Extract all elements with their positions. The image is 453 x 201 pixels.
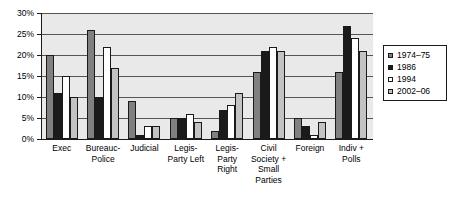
bar	[261, 51, 269, 139]
legend-label: 1974–75	[397, 51, 430, 60]
bar	[87, 30, 95, 139]
bars-layer	[41, 13, 372, 139]
bar	[351, 38, 359, 139]
y-tick-label: 30%	[17, 9, 34, 18]
legend-item[interactable]: 1986	[388, 61, 443, 73]
bar	[343, 26, 351, 139]
bar	[178, 118, 186, 139]
bar	[144, 126, 152, 139]
bar	[359, 51, 367, 139]
bar	[54, 93, 62, 139]
legend-swatch-icon	[388, 89, 393, 94]
legend-swatch-icon	[388, 53, 393, 58]
bar	[253, 72, 261, 139]
bar	[152, 126, 160, 139]
legend-item[interactable]: 1994	[388, 73, 443, 85]
x-axis: ExecBureauc- PoliceJudicialLegis- Party …	[41, 143, 372, 201]
bar-group	[128, 13, 160, 139]
legend-item[interactable]: 1974–75	[388, 49, 443, 61]
legend-swatch-icon	[388, 77, 393, 82]
bar	[335, 72, 343, 139]
bar-group	[87, 13, 119, 139]
bar	[194, 122, 202, 139]
bar	[95, 97, 103, 139]
legend-label: 1986	[397, 63, 416, 72]
y-tick-label: 20%	[17, 51, 34, 60]
legend: 1974–75198619942002–06	[383, 45, 447, 101]
bar	[318, 122, 326, 139]
bar-chart: 0%5%10%15%20%25%30% ExecBureauc- PoliceJ…	[0, 0, 453, 201]
bar	[103, 47, 111, 139]
legend-label: 2002–06	[397, 87, 430, 96]
bar	[46, 55, 54, 139]
bar	[70, 97, 78, 139]
y-axis: 0%5%10%15%20%25%30%	[0, 0, 41, 152]
bar	[277, 51, 285, 139]
bar	[302, 126, 310, 139]
bar-group	[211, 13, 243, 139]
bar	[219, 110, 227, 139]
bar-group	[46, 13, 78, 139]
x-axis-label: Indiv + Polls	[326, 143, 377, 164]
bar	[136, 135, 144, 139]
bar	[62, 76, 70, 139]
y-tick-label: 0%	[22, 135, 34, 144]
y-tick-label: 25%	[17, 30, 34, 39]
bar	[111, 68, 119, 139]
bar	[269, 47, 277, 139]
bar	[227, 105, 235, 139]
bar	[294, 118, 302, 139]
bar-group	[335, 13, 367, 139]
bar	[310, 135, 318, 139]
legend-label: 1994	[397, 75, 416, 84]
legend-item[interactable]: 2002–06	[388, 85, 443, 97]
bar	[235, 93, 243, 139]
bar	[186, 114, 194, 139]
bar	[128, 101, 136, 139]
bar-group	[294, 13, 326, 139]
bar-group	[170, 13, 202, 139]
y-tick-label: 15%	[17, 72, 34, 81]
bar	[211, 131, 219, 139]
y-tick-label: 5%	[22, 114, 34, 123]
bar-group	[253, 13, 285, 139]
bar	[170, 118, 178, 139]
legend-swatch-icon	[388, 65, 393, 70]
y-tick-label: 10%	[17, 93, 34, 102]
